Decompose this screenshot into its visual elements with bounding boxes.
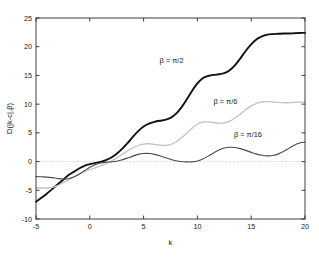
y-tick-label: 5: [28, 128, 32, 137]
x-axis-title: k: [169, 238, 173, 247]
x-tick-label: -5: [33, 222, 39, 231]
y-tick-label: 20: [24, 42, 32, 51]
y-tick-label: 25: [24, 14, 32, 23]
x-tick-label: 20: [301, 222, 309, 231]
annotation-beta-pi-over-6: β = π/6: [213, 97, 237, 106]
chart-canvas: -505101520 -10-50510152025 β = π/2β = π/…: [0, 0, 319, 258]
x-tick-label: 15: [247, 222, 255, 231]
x-tick-label: 5: [142, 222, 146, 231]
y-tick-label: 0: [28, 157, 32, 166]
x-tick-label: 10: [193, 222, 201, 231]
annotation-beta-pi-over-16: β = π/16: [234, 130, 262, 139]
y-tick-label: -5: [26, 186, 32, 195]
x-tick-label: 0: [88, 222, 92, 231]
y-tick-label: -10: [22, 215, 32, 224]
y-axis-title: D(|k-c|,β): [5, 102, 14, 134]
annotation-beta-pi-over-2: β = π/2: [160, 56, 184, 65]
y-tick-label: 15: [24, 71, 32, 80]
figure-container: -505101520 -10-50510152025 β = π/2β = π/…: [0, 0, 319, 258]
y-tick-label: 10: [24, 100, 32, 109]
